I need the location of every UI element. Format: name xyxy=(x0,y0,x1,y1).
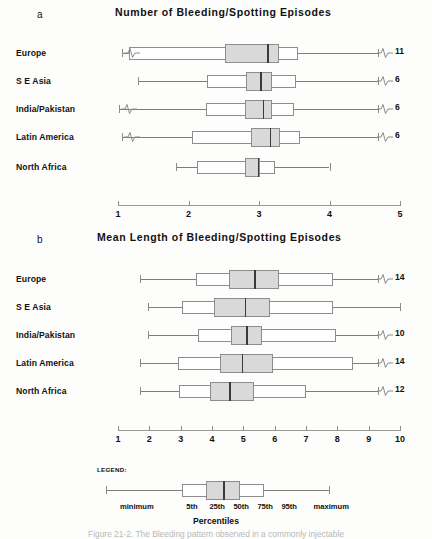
axis-tick-label: 2 xyxy=(147,434,152,444)
axis-break-icon xyxy=(377,384,393,398)
boxplot-row: 6 xyxy=(0,126,432,148)
axis-tick xyxy=(369,426,370,431)
median-line xyxy=(229,382,231,401)
boxplot-row: 6 xyxy=(0,70,432,92)
max-value-label: 14 xyxy=(395,272,405,282)
axis-tick xyxy=(400,201,401,206)
max-value-label: 6 xyxy=(395,102,400,112)
legend-whisker-right xyxy=(264,490,329,491)
box-25th-75th xyxy=(214,298,270,317)
whisker-cap-min xyxy=(140,275,141,283)
legend-label: 75th xyxy=(257,502,273,511)
axis-tick xyxy=(189,201,190,206)
box-25th-75th xyxy=(251,128,281,147)
max-value-label: 12 xyxy=(395,384,405,394)
whisker-left xyxy=(148,307,182,308)
max-value-label: 14 xyxy=(395,356,405,366)
whisker-right xyxy=(333,307,400,308)
legend-label: 5th xyxy=(186,502,197,511)
box-25th-75th xyxy=(245,100,272,119)
whisker-left xyxy=(140,391,179,392)
panel-b-plot: Europe14S E AsiaIndia/Pakistan10Latin Am… xyxy=(0,225,432,450)
whisker-cap-min xyxy=(148,303,149,311)
whisker-cap-max xyxy=(330,163,331,171)
legend-label: 95th xyxy=(281,502,297,511)
whisker-cap-max xyxy=(400,303,401,311)
legend-label: 50th xyxy=(233,502,249,511)
axis-break-icon xyxy=(377,272,393,286)
whisker-right xyxy=(336,335,378,336)
whisker-left xyxy=(140,363,178,364)
legend-title: LEGEND: xyxy=(97,466,127,473)
axis-break-icon xyxy=(124,46,140,60)
axis-tick xyxy=(118,426,119,431)
whisker-cap-min xyxy=(140,387,141,395)
axis-tick xyxy=(243,426,244,431)
median-line xyxy=(246,326,248,345)
axis-tick-label: 9 xyxy=(366,434,371,444)
whisker-cap-min xyxy=(176,163,177,171)
box-25th-75th xyxy=(225,44,279,63)
median-line xyxy=(245,298,247,317)
axis-break-icon xyxy=(377,74,393,88)
legend-boxplot xyxy=(96,479,336,501)
legend-label: maximum xyxy=(313,502,348,511)
axis-tick xyxy=(212,426,213,431)
boxplot-row xyxy=(0,156,432,178)
legend-cap-max xyxy=(329,486,330,494)
axis-tick-label: 4 xyxy=(327,209,332,219)
axis-tick xyxy=(306,426,307,431)
whisker-right xyxy=(298,53,378,54)
whisker-cap-min xyxy=(148,331,149,339)
axis-tick xyxy=(330,201,331,206)
axis-tick-label: 3 xyxy=(256,209,261,219)
axis-break-icon xyxy=(124,130,140,144)
whisker-right xyxy=(333,279,378,280)
median-line xyxy=(242,354,244,373)
median-line xyxy=(263,100,265,119)
axis-tick xyxy=(149,426,150,431)
axis-break-icon xyxy=(377,46,393,60)
box-5th-95th xyxy=(192,131,300,144)
max-value-label: 6 xyxy=(395,74,400,84)
axis-break-icon xyxy=(377,356,393,370)
legend-label: minimum xyxy=(120,502,154,511)
median-line xyxy=(267,44,269,63)
whisker-left xyxy=(138,81,207,82)
legend-whisker-left xyxy=(106,490,183,491)
percentiles-axis-label: Percentiles xyxy=(0,516,432,526)
whisker-left xyxy=(176,167,197,168)
boxplot-row: 12 xyxy=(0,380,432,402)
axis-tick-label: 2 xyxy=(186,209,191,219)
axis-tick xyxy=(118,201,119,206)
axis-break-icon xyxy=(377,328,393,342)
axis-tick-label: 1 xyxy=(115,209,120,219)
axis-tick-label: 5 xyxy=(241,434,246,444)
boxplot-row: 14 xyxy=(0,268,432,290)
whisker-cap-min xyxy=(138,77,139,85)
axis-tick xyxy=(181,426,182,431)
axis-tick-label: 10 xyxy=(395,434,405,444)
median-line xyxy=(260,72,262,91)
max-value-label: 6 xyxy=(395,130,400,140)
axis-tick-label: 4 xyxy=(209,434,214,444)
whisker-cap-min xyxy=(119,105,120,113)
axis-tick xyxy=(275,426,276,431)
axis-tick-label: 8 xyxy=(335,434,340,444)
axis-tick xyxy=(259,201,260,206)
max-value-label: 11 xyxy=(395,46,404,56)
legend-cap-min xyxy=(106,486,107,494)
boxplot-row: 14 xyxy=(0,352,432,374)
whisker-cap-min xyxy=(122,49,123,57)
panel-a-plot: Europe11S E Asia6India/Pakistan6Latin Am… xyxy=(0,0,432,225)
whisker-right xyxy=(294,109,378,110)
box-5th-95th xyxy=(197,161,275,174)
whisker-right xyxy=(353,363,378,364)
legend: LEGEND: minimum5th25th50th75th95thmaximu… xyxy=(0,466,432,526)
whisker-cap-min xyxy=(122,133,123,141)
whisker-right xyxy=(300,137,378,138)
axis-tick-label: 5 xyxy=(397,209,402,219)
legend-label: 25th xyxy=(209,502,225,511)
boxplot-row: 6 xyxy=(0,98,432,120)
axis-break-icon xyxy=(377,130,393,144)
